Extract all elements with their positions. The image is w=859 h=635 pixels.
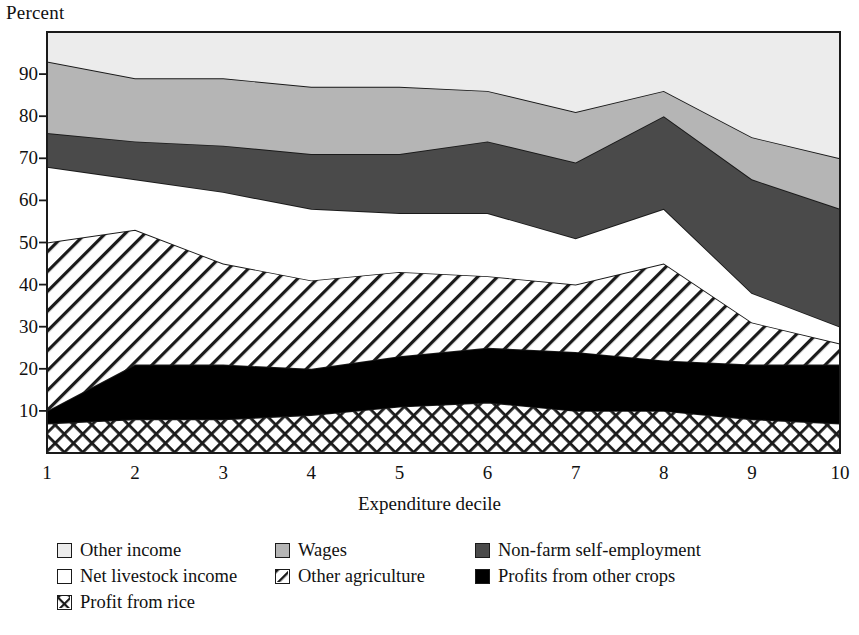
black-square-swatch [475,569,490,584]
x-tick-label-5: 5 [395,463,405,482]
x-tick-label-6: 6 [483,463,493,482]
legend-item-livestock[interactable]: Net livestock income [57,566,275,586]
chart-legend: Other incomeWagesNon-farm self-employmen… [57,537,847,615]
x-axis-title: Expenditure decile [0,493,859,515]
stacked-area-bands [47,32,840,453]
legend-label-other-crops: Profits from other crops [498,566,675,586]
legend-item-wages[interactable]: Wages [275,540,475,560]
cross-hatch-square-swatch [57,595,72,610]
white-square-swatch [57,569,72,584]
legend-label-livestock: Net livestock income [80,566,237,586]
x-tick-label-8: 8 [659,463,669,482]
legend-item-other-crops[interactable]: Profits from other crops [475,566,847,586]
light-gray-square-swatch [57,543,72,558]
y-tick-label: 20 [2,359,38,378]
legend-label-other-agriculture: Other agriculture [298,566,425,586]
x-tick-label-9: 9 [747,463,757,482]
y-tick-label: 90 [2,64,38,83]
diagonal-hatch-square-swatch [275,569,290,584]
legend-item-other-income[interactable]: Other income [57,540,275,560]
medium-gray-square-swatch [275,543,290,558]
y-tick-label: 60 [2,190,38,209]
legend-item-nonfarm[interactable]: Non-farm self-employment [475,540,847,560]
legend-label-wages: Wages [298,540,347,560]
y-tick-label: 70 [2,148,38,167]
legend-label-rice: Profit from rice [80,592,195,612]
y-tick-label: 50 [2,233,38,252]
legend-item-rice[interactable]: Profit from rice [57,592,275,612]
y-axis-tick-marks [39,74,47,411]
x-tick-label-7: 7 [571,463,581,482]
legend-item-other-agriculture[interactable]: Other agriculture [275,566,475,586]
y-tick-label: 40 [2,275,38,294]
x-tick-label-3: 3 [218,463,228,482]
dark-gray-square-swatch [475,543,490,558]
legend-label-other-income: Other income [80,540,181,560]
figure: Percent [0,0,859,635]
y-tick-label: 10 [2,401,38,420]
x-tick-label-10: 10 [831,463,850,482]
x-tick-label-2: 2 [130,463,140,482]
y-tick-label: 80 [2,106,38,125]
y-tick-label: 30 [2,317,38,336]
x-tick-label-4: 4 [307,463,317,482]
x-tick-label-1: 1 [42,463,52,482]
legend-label-nonfarm: Non-farm self-employment [498,540,701,560]
